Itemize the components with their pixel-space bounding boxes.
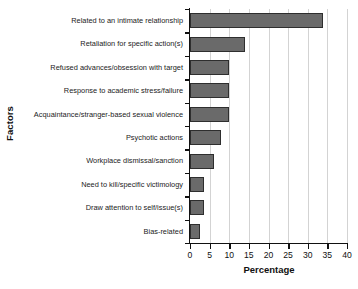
bar: [190, 224, 200, 239]
y-axis-tick: [185, 56, 190, 57]
bar-series: [190, 9, 347, 243]
x-axis-tick-label: 25: [278, 250, 298, 260]
category-label: Workplace dismissal/sanction: [12, 149, 187, 172]
y-axis-tick: [185, 196, 190, 197]
bar-row: [190, 9, 347, 32]
bar: [190, 130, 221, 145]
category-label: Need to kill/specific victimology: [12, 173, 187, 196]
bar: [190, 37, 245, 52]
x-axis-tick: [347, 244, 348, 249]
x-axis-tick-label: 5: [200, 250, 220, 260]
y-axis-tick: [185, 220, 190, 221]
x-axis-tick-label: 15: [239, 250, 259, 260]
bar: [190, 200, 204, 215]
x-axis-tick: [229, 244, 230, 249]
bar-row: [190, 79, 347, 102]
bar: [190, 13, 323, 28]
bar-row: [190, 126, 347, 149]
bar: [190, 83, 229, 98]
x-axis-tick-label: 35: [317, 250, 337, 260]
x-axis-tick: [308, 244, 309, 249]
bar-row: [190, 173, 347, 196]
category-label: Acquaintance/stranger-based sexual viole…: [12, 103, 187, 126]
bar-row: [190, 32, 347, 55]
x-axis-tick-label: 30: [298, 250, 318, 260]
x-axis-title: Percentage: [190, 264, 348, 275]
x-axis-tick: [190, 244, 191, 249]
category-label: Response to academic stress/failure: [12, 79, 187, 102]
x-axis-tick-label: 20: [259, 250, 279, 260]
x-axis-tick: [288, 244, 289, 249]
x-axis-tick-label: 10: [219, 250, 239, 260]
category-label: Refused advances/obsession with target: [12, 56, 187, 79]
y-axis-tick: [185, 103, 190, 104]
bar: [190, 60, 229, 75]
bar-row: [190, 220, 347, 243]
category-label: Retaliation for specific action(s): [12, 32, 187, 55]
y-axis-tick: [185, 243, 190, 244]
plot-area: [190, 9, 347, 243]
y-axis-tick: [185, 173, 190, 174]
x-axis-tick: [249, 244, 250, 249]
category-label: Draw attention to self/issue(s): [12, 196, 187, 219]
gridline: [347, 9, 348, 243]
category-label-list: Related to an intimate relationship Reta…: [12, 9, 187, 243]
category-label: Related to an intimate relationship: [12, 9, 187, 32]
category-label: Psychotic actions: [12, 126, 187, 149]
bar-row: [190, 149, 347, 172]
bar: [190, 177, 204, 192]
y-axis-tick: [185, 32, 190, 33]
y-axis-tick: [185, 9, 190, 10]
bar: [190, 107, 229, 122]
bar-row: [190, 196, 347, 219]
y-axis-tick: [185, 79, 190, 80]
x-axis-tick-label: 40: [337, 250, 357, 260]
y-axis-tick: [185, 149, 190, 150]
horizontal-bar-chart: Factors Related to an intimate relations…: [0, 0, 358, 289]
bar-row: [190, 56, 347, 79]
y-axis-tick: [185, 126, 190, 127]
bar: [190, 154, 214, 169]
x-axis-tick: [269, 244, 270, 249]
x-axis-tick-label: 0: [180, 250, 200, 260]
x-axis-tick: [210, 244, 211, 249]
x-axis-tick: [327, 244, 328, 249]
category-label: Bias-related: [12, 220, 187, 243]
bar-row: [190, 103, 347, 126]
